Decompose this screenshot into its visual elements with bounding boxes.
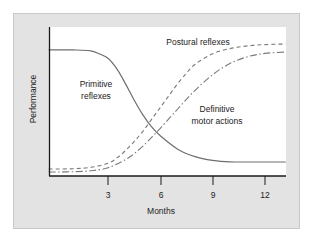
postural-reflexes-label: Postural reflexes xyxy=(166,37,229,47)
x-axis-label: Months xyxy=(147,206,175,216)
definitive-motor-actions-label-line2: motor actions xyxy=(191,116,242,126)
primitive-reflexes-label-line1: Primitive xyxy=(80,79,113,89)
plot-area xyxy=(49,27,286,176)
x-tick-label-3: 3 xyxy=(106,190,111,200)
x-ticks xyxy=(108,176,265,185)
primitive-reflexes-label-line2: reflexes xyxy=(81,91,111,101)
x-tick-label-6: 6 xyxy=(159,190,164,200)
line-chart: 3 6 9 12 Months Performance Postural ref… xyxy=(0,0,314,242)
x-tick-label-12: 12 xyxy=(260,190,270,200)
x-tick-label-9: 9 xyxy=(211,190,216,200)
definitive-motor-actions-label-line1: Definitive xyxy=(200,104,235,114)
y-axis-label: Performance xyxy=(28,74,38,123)
